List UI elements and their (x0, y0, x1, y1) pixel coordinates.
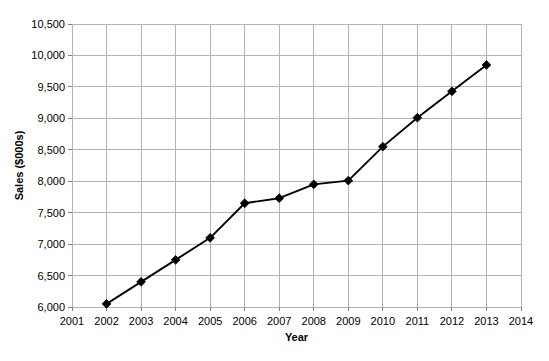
x-tick-label: 2004 (163, 315, 187, 327)
y-tick-label: 9,000 (37, 112, 65, 124)
line-chart: 6,0006,5007,0007,5008,0008,5009,0009,500… (0, 0, 549, 361)
x-tick-label: 2003 (129, 315, 153, 327)
x-axis-ticks: 2001200220032004200520062007200820092010… (60, 307, 533, 327)
y-tick-label: 10,500 (31, 18, 65, 30)
x-tick-label: 2009 (336, 315, 360, 327)
x-tick-label: 2013 (474, 315, 498, 327)
y-tick-label: 9,500 (37, 81, 65, 93)
x-tick-label: 2010 (371, 315, 395, 327)
x-tick-label: 2007 (267, 315, 291, 327)
x-axis-title: Year (285, 331, 309, 343)
x-tick-label: 2011 (406, 315, 430, 327)
x-tick-label: 2008 (302, 315, 326, 327)
x-tick-label: 2012 (440, 315, 464, 327)
y-tick-label: 8,000 (37, 175, 65, 187)
x-tick-label: 2005 (198, 315, 222, 327)
y-axis-ticks: 6,0006,5007,0007,5008,0008,5009,0009,500… (31, 18, 72, 313)
y-tick-label: 6,000 (37, 301, 65, 313)
x-tick-label: 2014 (509, 315, 533, 327)
y-tick-label: 7,500 (37, 207, 65, 219)
y-tick-label: 6,500 (37, 270, 65, 282)
y-tick-label: 7,000 (37, 238, 65, 250)
y-axis-title: Sales ($000s) (13, 130, 25, 200)
x-tick-label: 2006 (232, 315, 256, 327)
x-tick-label: 2001 (60, 315, 84, 327)
x-tick-label: 2002 (94, 315, 118, 327)
chart-canvas: 6,0006,5007,0007,5008,0008,5009,0009,500… (0, 0, 549, 361)
plot-background (72, 24, 521, 307)
y-tick-label: 10,000 (31, 49, 65, 61)
y-tick-label: 8,500 (37, 144, 65, 156)
